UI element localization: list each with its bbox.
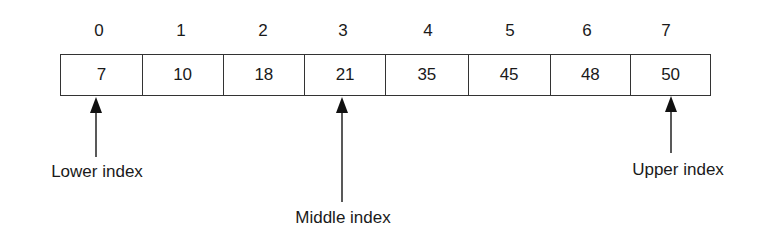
lower-index-label: Lower index [51, 162, 143, 182]
lower-arrow-icon [90, 97, 102, 157]
upper-index-label: Upper index [632, 160, 724, 180]
middle-index-label: Middle index [295, 208, 390, 228]
pointer-arrows [0, 0, 772, 236]
middle-arrow-icon [336, 97, 348, 202]
upper-arrow-icon [665, 96, 677, 153]
